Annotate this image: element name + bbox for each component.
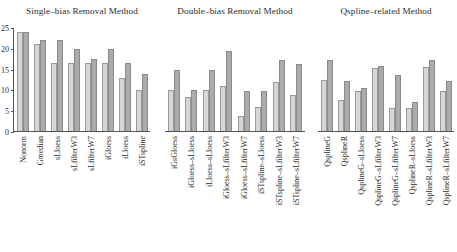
bar-dark [226,51,232,132]
x-axis-label-slot: QsplineG–sLloess [352,136,369,248]
x-axis-label: iGloess–sLfilterW7 [239,136,248,199]
y-axis-tick-label: 0 [5,128,9,137]
bar-dark [142,74,148,132]
x-axis-label: iGloess–sLloess [187,136,196,188]
bar-dark [91,59,97,132]
x-axis-label-slot: iGloess [99,136,116,248]
x-axis-label-slot: QsplineR–sLfilterW7 [437,136,454,248]
bar-group [183,28,201,132]
x-axis-labels: NonormGmediansLloesssLfilterW3sLfilterW7… [14,136,150,248]
bar-group [270,28,288,132]
bar-group [14,28,31,132]
bar-group [82,28,99,132]
bar-dark [378,66,384,132]
x-axis-label-slot: iLloess [116,136,133,248]
bar-dark [23,32,29,132]
bar-dark [74,49,80,132]
bar-group [133,28,150,132]
bar-dark [327,60,333,132]
x-axis-label: iLloess–sLloess [204,136,213,187]
bar-dark [40,40,46,132]
x-axis-label-slot: QsplineG–sLfilterW3 [369,136,386,248]
x-axis-label: iSTspline [137,136,146,166]
chart-panel: Single–bias Removal MethodNonormGmedians… [14,0,150,252]
x-axis-label-slot: iLloess–sLloess [200,136,218,248]
chart-panel: Qspline–related MethodQsplineGQsplineRQs… [318,0,454,252]
y-axis-tick-label: 10 [1,86,9,95]
bar-dark [209,70,215,132]
x-axis-label: Nonorm [18,136,27,163]
x-axis-label: QsplineG [322,136,331,167]
plot-area [14,28,150,132]
bar-group [288,28,306,132]
y-axis-tick-label: 5 [5,107,9,116]
bar-group [48,28,65,132]
bar-dark [429,60,435,132]
x-axis-label-slot: QsplineG–sLfilterW7 [386,136,403,248]
x-axis-label-slot: QsplineG [318,136,335,248]
x-axis-label-slot: sLloess [48,136,65,248]
bar-group [218,28,236,132]
x-axis-label-slot: Gmedian [31,136,48,248]
bar-group [235,28,253,132]
x-axis-label: Gmedian [35,136,44,165]
x-axis-label-slot: iSTspline–sLfilterW3 [270,136,288,248]
bar-dark [174,70,180,132]
bar-dark [108,49,114,132]
bar-dark [279,60,285,132]
bar-group [386,28,403,132]
x-axis-label: QsplineG–sLfilterW3 [373,136,382,206]
y-axis-tick-label: 25 [1,24,9,33]
x-axis-label: QsplineG–sLloess [356,136,365,195]
x-axis-label: QsplineR–sLloess [407,136,416,194]
x-axis-labels: QsplineGQsplineRQsplineG–sLloessQsplineG… [318,136,454,248]
panel-title: Single–bias Removal Method [14,6,150,16]
x-axis-label: QsplineR–sLfilterW3 [424,136,433,205]
x-axis-label: iGloess–sLfilterW3 [222,136,231,199]
y-axis: 0510152025 [0,28,14,132]
x-axis-label-slot: iGsGloess [165,136,183,248]
bar-group [352,28,369,132]
x-axis-label: iSTspline–sLloess [257,136,266,194]
x-axis-label-slot: iGloess–sLloess [183,136,201,248]
bar-dark [125,63,131,132]
bar-group [65,28,82,132]
x-axis-label: iLloess [120,136,129,159]
bar-group [335,28,352,132]
bar-group [116,28,133,132]
bar-group [200,28,218,132]
x-axis-label: QsplineR [339,136,348,166]
bar-dark [344,81,350,132]
x-axis-label: iSTspline–sLfilterW7 [292,136,301,205]
chart-panel: Double–bias Removal MethodiGsGloessiGloe… [165,0,305,252]
plot-area [165,28,305,132]
x-axis-label-slot: iSTspline–sLfilterW7 [288,136,306,248]
bar-group [437,28,454,132]
x-axis-label: QsplineG–sLfilterW7 [390,136,399,206]
x-axis-label: iGsGloess [169,136,178,169]
x-axis-label-slot: iGloess–sLfilterW7 [235,136,253,248]
x-axis-label: iGloess [103,136,112,160]
bar-group [165,28,183,132]
x-axis-label: sLfilterW7 [86,136,95,171]
bar-group [253,28,271,132]
bar-group [31,28,48,132]
plot-area [318,28,454,132]
x-axis-label: sLfilterW3 [69,136,78,171]
x-axis-label-slot: iSTspline [133,136,150,248]
bar-group [99,28,116,132]
x-axis-label: QsplineR–sLfilterW7 [441,136,450,205]
x-axis-label-slot: QsplineR–sLfilterW3 [420,136,437,248]
bar-dark [412,102,418,132]
bar-dark [261,91,267,132]
x-axis-label-slot: sLfilterW7 [82,136,99,248]
bar-dark [395,75,401,132]
x-axis-label-slot: Nonorm [14,136,31,248]
bar-chart-figure: 0510152025 Single–bias Removal MethodNon… [0,0,457,252]
bar-dark [296,64,302,132]
x-axis-label-slot: sLfilterW3 [65,136,82,248]
y-axis-tick-label: 15 [1,65,9,74]
bar-dark [244,91,250,132]
x-axis-label: sLloess [52,136,61,160]
x-axis-label-slot: QsplineR [335,136,352,248]
